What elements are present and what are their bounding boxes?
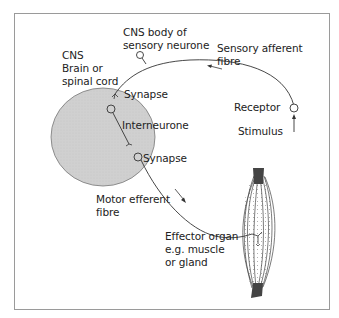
cns-region — [51, 88, 155, 186]
label-effector: Effector organe.g. muscleor gland — [165, 230, 238, 269]
label-receptor: Receptor — [234, 101, 280, 114]
label-synapse-top: Synapse — [124, 88, 168, 101]
label-synapse-bottom: Synapse — [143, 152, 187, 165]
label-cns: CNSBrain orspinal cord — [62, 49, 118, 88]
label-cns-body: CNS body ofsensory neurone — [123, 26, 209, 52]
sensory-cell-body — [137, 52, 144, 59]
motor-neurone-body — [134, 153, 142, 161]
interneurone-body — [107, 105, 115, 113]
label-sensory-fibre: Sensory afferentfibre — [217, 42, 303, 68]
stimulus-arrow — [292, 114, 296, 132]
motor-direction-arrow — [175, 189, 186, 203]
receptor-circle — [290, 104, 298, 112]
label-interneurone: Interneurone — [122, 119, 189, 132]
muscle-icon — [242, 168, 275, 298]
label-stimulus: Stimulus — [238, 125, 283, 138]
label-motor-fibre: Motor efferentfibre — [96, 193, 170, 219]
